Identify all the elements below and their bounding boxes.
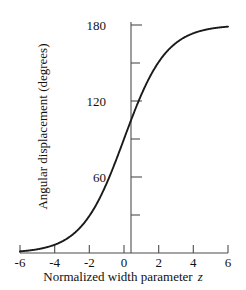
ytick-label-180: 180 (76, 19, 106, 32)
xtick-label-2: 2 (145, 256, 173, 269)
y-axis-title: Angular displacement (degrees) (36, 22, 49, 232)
xtick-label-neg2: -2 (75, 256, 103, 269)
xtick-label-6: 6 (214, 256, 242, 269)
x-axis-title-symbol: z (193, 269, 203, 284)
xtick-label-4: 4 (179, 256, 207, 269)
xtick-label-0: 0 (110, 256, 138, 269)
xtick-label-neg6: -6 (6, 256, 34, 269)
ytick-label-120: 120 (76, 95, 106, 108)
chart-figure: 180 120 60 -6 -4 -2 0 2 4 6 Angular disp… (0, 0, 246, 290)
xtick-label-neg4: -4 (41, 256, 69, 269)
data-curve (20, 27, 228, 252)
x-axis-title-text: Normalized width parameter (43, 269, 192, 284)
ytick-label-60: 60 (76, 171, 106, 184)
x-axis-title: Normalized width parameterz (0, 270, 246, 283)
y-axis-ticks (131, 25, 142, 215)
